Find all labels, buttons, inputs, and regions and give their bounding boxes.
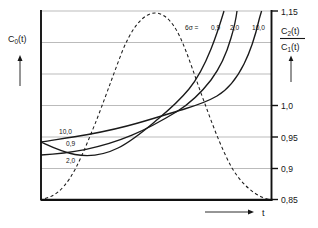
tick-label-0-85: 0,85 — [281, 195, 298, 205]
param-prefix-label: 6σ = — [185, 24, 199, 31]
left-axis-title: C0(t) — [8, 34, 27, 86]
chart-canvas: 1,15 1,0 0,95 0,9 0,85 C2(t) C1(t) C0(t) — [0, 0, 318, 228]
tick-label-0-95: 0,95 — [281, 133, 298, 143]
top-label-sigma-2-0: 2,0 — [230, 24, 239, 31]
right-axis-numerator: C2(t) — [281, 26, 300, 37]
left-axis-paren: (t) — [18, 34, 27, 44]
left-label-sigma-0-9: 0,9 — [66, 140, 75, 147]
tick-label-0-90: 0,9 — [281, 164, 293, 174]
right-axis-arrow-up-icon — [289, 56, 294, 83]
top-label-sigma-0-9: 0,9 — [211, 24, 220, 31]
right-axis-denominator: C1(t) — [281, 42, 300, 53]
chart-figure: 1,15 1,0 0,95 0,9 0,85 C2(t) C1(t) C0(t) — [0, 0, 318, 228]
tick-label-1-00: 1,0 — [281, 101, 293, 111]
x-axis-arrow-right-icon — [248, 210, 254, 215]
right-axis-title: C2(t) C1(t) — [280, 26, 305, 82]
right-num-paren: (t) — [291, 26, 300, 36]
left-axis-arrow-up-icon — [18, 55, 23, 86]
right-axis-ticks — [272, 11, 278, 200]
x-axis-title: t — [205, 208, 265, 218]
right-den-paren: (t) — [291, 42, 300, 52]
left-label-sigma-10-0: 10,0 — [59, 128, 72, 135]
x-axis-label: t — [262, 208, 265, 218]
left-axis-label: C0(t) — [8, 34, 27, 45]
top-label-sigma-10-0: 10,0 — [252, 24, 265, 31]
left-label-sigma-2-0: 2,0 — [66, 157, 75, 164]
tick-label-1-15: 1,15 — [281, 7, 298, 17]
